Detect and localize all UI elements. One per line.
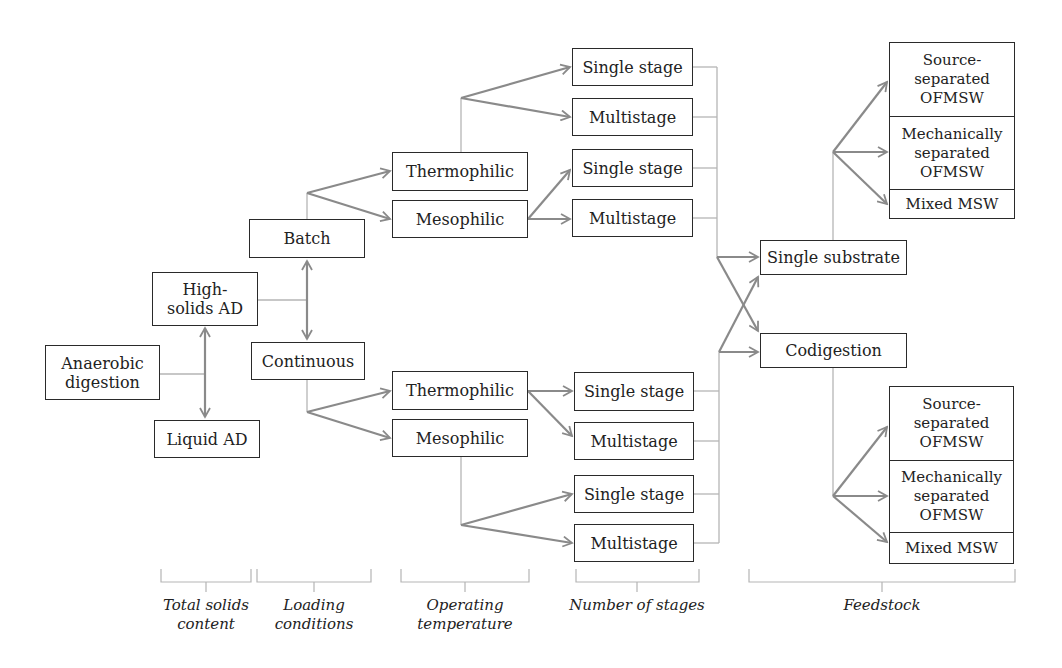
node-single-substrate: Single substrate (760, 240, 907, 275)
node-source-separated-ofmsw: Source- separated OFMSW (890, 43, 1014, 116)
node-batch-thermo-single-stage: Single stage (572, 48, 693, 86)
node-batch: Batch (249, 219, 365, 258)
node-batch-meso-multistage: Multistage (572, 199, 693, 237)
category-feedstock: Feedstock (822, 596, 942, 615)
node-continuous-mesophilic: Mesophilic (392, 419, 528, 457)
feedstock-stack-codigestion: Source- separated OFMSW Mechanically sep… (889, 386, 1014, 564)
node-batch-thermo-multistage: Multistage (572, 98, 693, 136)
feedstock-stack-single-substrate: Source- separated OFMSW Mechanically sep… (889, 42, 1015, 219)
node-codigestion: Codigestion (760, 333, 907, 368)
node-liquid-ad: Liquid AD (154, 420, 260, 458)
node-batch-meso-single-stage: Single stage (572, 149, 693, 187)
category-loading-conditions: Loading conditions (254, 596, 374, 634)
node-continuous: Continuous (251, 342, 365, 380)
node-batch-thermophilic: Thermophilic (392, 152, 528, 191)
node-mechanically-separated-ofmsw: Mechanically separated OFMSW (890, 116, 1014, 189)
node-batch-mesophilic: Mesophilic (392, 200, 528, 238)
category-number-of-stages: Number of stages (557, 596, 717, 615)
category-total-solids-content: Total solids content (146, 596, 266, 634)
node-cont-thermo-single-stage: Single stage (574, 372, 694, 411)
ad-classification-diagram: Anaerobic digestion High- solids AD Liqu… (0, 0, 1062, 668)
node-source-separated-ofmsw: Source- separated OFMSW (890, 387, 1013, 460)
node-mixed-msw: Mixed MSW (890, 532, 1013, 563)
node-continuous-thermophilic: Thermophilic (392, 371, 528, 410)
node-mechanically-separated-ofmsw: Mechanically separated OFMSW (890, 460, 1013, 532)
node-mixed-msw: Mixed MSW (890, 189, 1014, 218)
category-operating-temperature: Operating temperature (400, 596, 530, 634)
node-cont-thermo-multistage: Multistage (574, 422, 694, 460)
node-cont-meso-multistage: Multistage (574, 524, 694, 562)
node-cont-meso-single-stage: Single stage (574, 475, 694, 513)
node-high-solids-ad: High- solids AD (152, 272, 258, 326)
node-anaerobic-digestion: Anaerobic digestion (45, 345, 160, 400)
